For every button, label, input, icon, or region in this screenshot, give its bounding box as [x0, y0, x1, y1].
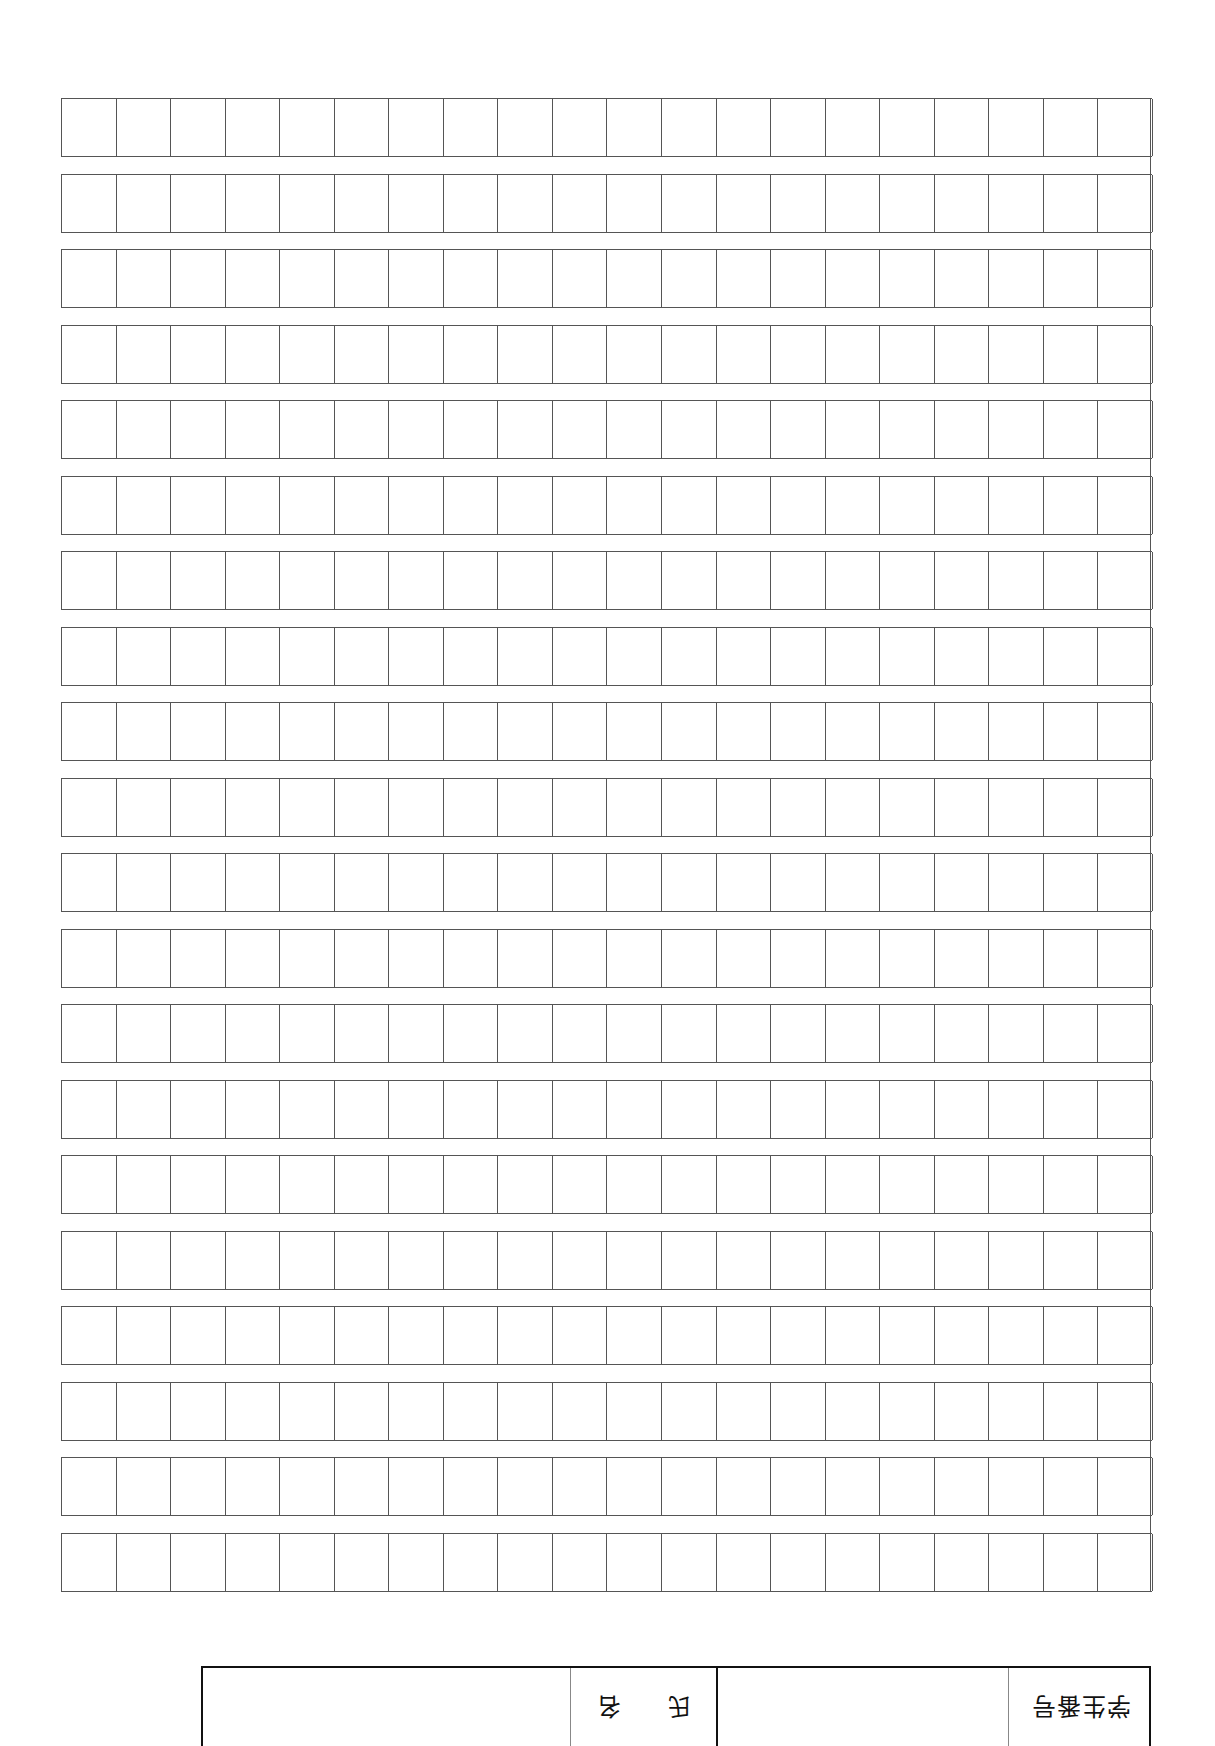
grid-cell[interactable]	[280, 1156, 335, 1213]
grid-cell[interactable]	[553, 854, 608, 911]
grid-cell[interactable]	[607, 1383, 662, 1440]
grid-cell[interactable]	[444, 552, 499, 609]
grid-cell[interactable]	[498, 1005, 553, 1062]
grid-cell[interactable]	[989, 779, 1044, 836]
grid-cell[interactable]	[117, 1081, 172, 1138]
grid-cell[interactable]	[62, 1383, 117, 1440]
grid-cell[interactable]	[171, 1081, 226, 1138]
grid-cell[interactable]	[662, 1307, 717, 1364]
grid-cell[interactable]	[935, 1307, 990, 1364]
grid-cell[interactable]	[989, 1156, 1044, 1213]
grid-cell[interactable]	[935, 930, 990, 987]
grid-cell[interactable]	[717, 401, 772, 458]
grid-cell[interactable]	[662, 99, 717, 156]
grid-cell[interactable]	[771, 1156, 826, 1213]
grid-cell[interactable]	[607, 1081, 662, 1138]
grid-cell[interactable]	[717, 1383, 772, 1440]
grid-cell[interactable]	[662, 175, 717, 232]
grid-cell[interactable]	[389, 1081, 444, 1138]
grid-cell[interactable]	[280, 779, 335, 836]
name-value-field[interactable]	[203, 1668, 570, 1746]
grid-cell[interactable]	[880, 1534, 935, 1591]
grid-cell[interactable]	[1044, 1005, 1099, 1062]
grid-cell[interactable]	[607, 854, 662, 911]
grid-cell[interactable]	[1044, 552, 1099, 609]
grid-cell[interactable]	[1098, 326, 1153, 383]
grid-cell[interactable]	[717, 703, 772, 760]
grid-cell[interactable]	[1098, 175, 1153, 232]
grid-cell[interactable]	[989, 1534, 1044, 1591]
grid-cell[interactable]	[1044, 779, 1099, 836]
grid-cell[interactable]	[1098, 1307, 1153, 1364]
grid-cell[interactable]	[607, 628, 662, 685]
grid-cell[interactable]	[553, 477, 608, 534]
grid-cell[interactable]	[880, 99, 935, 156]
grid-cell[interactable]	[226, 175, 281, 232]
grid-cell[interactable]	[935, 628, 990, 685]
grid-cell[interactable]	[1098, 1534, 1153, 1591]
grid-cell[interactable]	[553, 1005, 608, 1062]
grid-cell[interactable]	[171, 1232, 226, 1289]
grid-cell[interactable]	[498, 1458, 553, 1515]
grid-cell[interactable]	[171, 1156, 226, 1213]
grid-cell[interactable]	[826, 326, 881, 383]
grid-cell[interactable]	[662, 1081, 717, 1138]
grid-cell[interactable]	[280, 250, 335, 307]
grid-cell[interactable]	[389, 703, 444, 760]
grid-cell[interactable]	[62, 99, 117, 156]
grid-cell[interactable]	[389, 1534, 444, 1591]
grid-cell[interactable]	[444, 1383, 499, 1440]
grid-cell[interactable]	[171, 552, 226, 609]
grid-cell[interactable]	[62, 401, 117, 458]
grid-cell[interactable]	[989, 1383, 1044, 1440]
grid-cell[interactable]	[226, 1232, 281, 1289]
grid-cell[interactable]	[771, 250, 826, 307]
grid-cell[interactable]	[117, 1307, 172, 1364]
grid-cell[interactable]	[389, 1005, 444, 1062]
grid-cell[interactable]	[280, 854, 335, 911]
grid-cell[interactable]	[826, 175, 881, 232]
grid-cell[interactable]	[662, 1232, 717, 1289]
grid-cell[interactable]	[1098, 1458, 1153, 1515]
grid-cell[interactable]	[989, 628, 1044, 685]
grid-cell[interactable]	[880, 930, 935, 987]
grid-cell[interactable]	[498, 1232, 553, 1289]
grid-cell[interactable]	[117, 854, 172, 911]
grid-cell[interactable]	[553, 1383, 608, 1440]
grid-cell[interactable]	[280, 552, 335, 609]
grid-cell[interactable]	[335, 1458, 390, 1515]
grid-cell[interactable]	[1044, 250, 1099, 307]
grid-cell[interactable]	[1044, 703, 1099, 760]
grid-cell[interactable]	[117, 628, 172, 685]
grid-cell[interactable]	[280, 1005, 335, 1062]
grid-cell[interactable]	[717, 1005, 772, 1062]
grid-cell[interactable]	[771, 477, 826, 534]
grid-cell[interactable]	[1044, 477, 1099, 534]
grid-cell[interactable]	[335, 779, 390, 836]
grid-cell[interactable]	[498, 99, 553, 156]
grid-cell[interactable]	[662, 1534, 717, 1591]
grid-cell[interactable]	[662, 930, 717, 987]
grid-cell[interactable]	[389, 175, 444, 232]
grid-cell[interactable]	[1044, 326, 1099, 383]
grid-cell[interactable]	[1044, 1156, 1099, 1213]
grid-cell[interactable]	[171, 1307, 226, 1364]
grid-cell[interactable]	[662, 628, 717, 685]
grid-cell[interactable]	[826, 477, 881, 534]
grid-cell[interactable]	[662, 552, 717, 609]
grid-cell[interactable]	[498, 401, 553, 458]
grid-cell[interactable]	[771, 779, 826, 836]
grid-cell[interactable]	[771, 1005, 826, 1062]
grid-cell[interactable]	[171, 1383, 226, 1440]
grid-cell[interactable]	[280, 1081, 335, 1138]
grid-cell[interactable]	[498, 552, 553, 609]
grid-cell[interactable]	[226, 930, 281, 987]
grid-cell[interactable]	[717, 930, 772, 987]
grid-cell[interactable]	[280, 326, 335, 383]
grid-cell[interactable]	[1044, 1458, 1099, 1515]
grid-cell[interactable]	[826, 1005, 881, 1062]
grid-cell[interactable]	[662, 401, 717, 458]
grid-cell[interactable]	[1044, 401, 1099, 458]
grid-cell[interactable]	[62, 1232, 117, 1289]
grid-cell[interactable]	[171, 930, 226, 987]
